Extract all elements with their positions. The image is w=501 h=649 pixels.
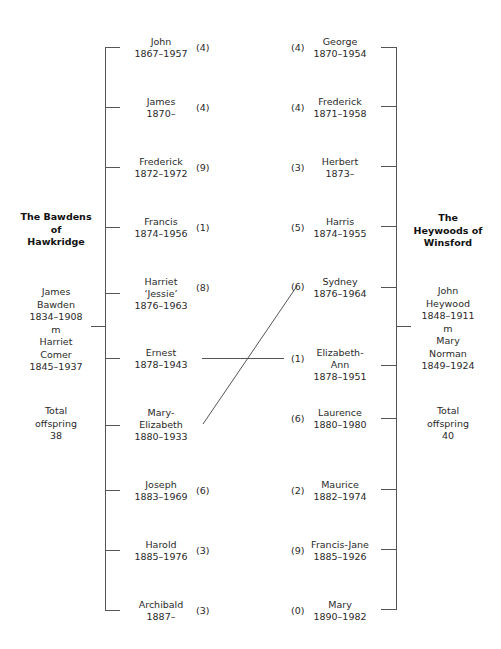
left-child-name: Francis1874–1956: [120, 216, 202, 240]
left-child-offspring: (3): [196, 545, 209, 557]
left-child-name: James1870–: [120, 96, 202, 120]
right-child-name: George1870–1954: [300, 36, 380, 60]
right-family-parents: John Heywood 1848–1911 m Mary Norman 184…: [412, 285, 484, 373]
right-child-name: Sydney1876–1964: [300, 276, 380, 300]
left-child-offspring: (3): [196, 605, 209, 617]
left-family-parents: James Bawden 1834–1908 m Harriet Comer 1…: [20, 286, 92, 374]
left-child-name: Mary- Elizabeth1880–1933: [120, 407, 202, 443]
right-child-name: Frederick1871–1958: [300, 96, 380, 120]
right-child-name: Laurence1880–1980: [300, 407, 380, 431]
left-child-name: Joseph1883–1969: [120, 479, 202, 503]
left-child-name: Frederick1872–1972: [120, 156, 202, 180]
right-child-name: Elizabeth- Ann1878–1951: [300, 347, 380, 383]
left-child-name: Harold1885–1976: [120, 539, 202, 563]
left-child-offspring: (4): [196, 102, 209, 114]
right-family-total: Total offspring 40: [412, 405, 484, 443]
right-family-title: The Heywoods of Winsford: [408, 212, 488, 250]
family-tree-diagram: The Bawdens of Hawkridge James Bawden 18…: [0, 0, 501, 649]
left-child-offspring: (4): [196, 42, 209, 54]
right-child-name: Maurice1882–1974: [300, 479, 380, 503]
left-child-name: John1867–1957: [120, 36, 202, 60]
left-family-title: The Bawdens of Hawkridge: [18, 211, 94, 249]
left-family-total: Total offspring 38: [20, 405, 92, 443]
left-child-offspring: (6): [196, 485, 209, 497]
left-child-name: Archibald1887–: [120, 599, 202, 623]
marriage-line-mary-elizabeth-sydney: [203, 286, 297, 424]
left-child-name: Harriet ‘Jessie’1876–1963: [120, 276, 202, 312]
left-child-offspring: (9): [196, 162, 209, 174]
right-child-name: Mary1890–1982: [300, 599, 380, 623]
right-child-name: Harris1874–1955: [300, 216, 380, 240]
right-child-name: Herbert1873–: [300, 156, 380, 180]
left-child-offspring: (1): [196, 222, 209, 234]
right-child-name: Francis-Jane1885–1926: [300, 539, 380, 563]
left-child-offspring: (8): [196, 282, 209, 294]
left-child-name: Ernest1878–1943: [120, 347, 202, 371]
